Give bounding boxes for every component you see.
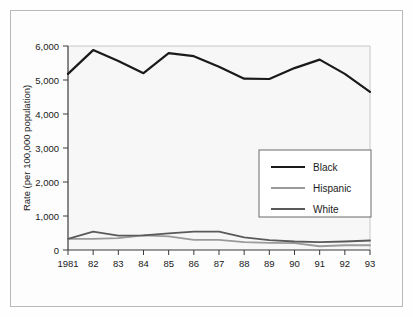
x-tick-label: 88 bbox=[239, 258, 250, 269]
x-tick-label: 91 bbox=[314, 258, 325, 269]
plot-area-background bbox=[68, 46, 370, 250]
y-tick-label: 0 bbox=[54, 245, 59, 256]
y-axis-ticks: 01,0002,0003,0004,0005,0006,000 bbox=[35, 41, 68, 256]
x-tick-label: 90 bbox=[289, 258, 300, 269]
legend-label-white: White bbox=[313, 204, 339, 215]
x-axis-ticks: 1981828384858687888990919293 bbox=[57, 250, 375, 269]
x-tick-label: 83 bbox=[113, 258, 124, 269]
y-tick-label: 2,000 bbox=[35, 177, 59, 188]
y-axis-title: Rate (per 100,000 population) bbox=[21, 85, 32, 211]
x-tick-label: 82 bbox=[88, 258, 99, 269]
x-tick-label: 1981 bbox=[57, 258, 78, 269]
legend-label-black: Black bbox=[313, 162, 338, 173]
x-tick-label: 84 bbox=[138, 258, 149, 269]
y-tick-label: 6,000 bbox=[35, 41, 59, 52]
x-tick-label: 93 bbox=[365, 258, 376, 269]
x-tick-label: 87 bbox=[214, 258, 225, 269]
chart-legend: BlackHispanicWhite bbox=[259, 150, 371, 217]
x-tick-label: 92 bbox=[340, 258, 351, 269]
y-tick-label: 3,000 bbox=[35, 143, 59, 154]
y-tick-label: 5,000 bbox=[35, 75, 59, 86]
x-tick-label: 86 bbox=[189, 258, 200, 269]
y-tick-label: 4,000 bbox=[35, 109, 59, 120]
line-chart: 01,0002,0003,0004,0005,0006,000 19818283… bbox=[0, 0, 413, 317]
x-tick-label: 89 bbox=[264, 258, 275, 269]
chart-figure: 01,0002,0003,0004,0005,0006,000 19818283… bbox=[0, 0, 413, 317]
x-tick-label: 85 bbox=[163, 258, 174, 269]
y-tick-label: 1,000 bbox=[35, 211, 59, 222]
legend-label-hispanic: Hispanic bbox=[313, 183, 351, 194]
